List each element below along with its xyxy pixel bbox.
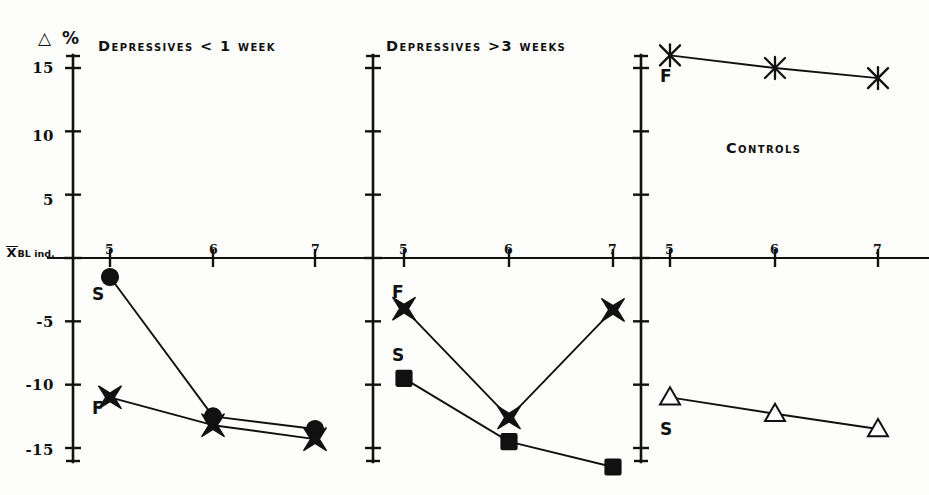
ytick-label-15: 15 [0,59,54,77]
series-label-p3-f: F [660,66,672,86]
panel-title-controls: Controls [726,140,801,156]
xtick-label-p3-7: 7 [873,242,882,257]
y-axis-unit-symbol: △ [38,28,52,48]
baseline-label-main: X [6,246,18,259]
series-label-p2-f: F [392,282,404,302]
ytick-label-minus10: -10 [0,376,54,394]
xtick-label-p1-6: 6 [209,242,218,257]
xtick-label-p3-5: 5 [665,242,674,257]
panel-title-depressives-lt1week: Depressives < 1 week [98,38,276,54]
xtick-label-p2-5: 5 [399,242,408,257]
ytick-label-10: 10 [0,127,54,145]
ytick-label-minus5: -5 [0,313,54,331]
series-label-p1-s: S [92,284,105,304]
y-axis-unit-label: % [62,28,80,48]
datapoint-panel-depressives-gt3weeks-F-x6 [498,406,521,429]
baseline-label-subscript: BL ind. [18,248,55,259]
baseline-label: XBL ind. [6,246,55,259]
series-line-panel-depressives-gt3weeks-F [404,309,613,418]
xtick-label-p1-5: 5 [105,242,114,257]
ytick-label-minus15: -15 [0,441,54,459]
xtick-label-p1-7: 7 [311,242,320,257]
series-label-p3-s: S [660,419,673,439]
datapoint-panel-controls-S-x5 [660,387,680,404]
series-label-p2-s: S [392,345,405,365]
datapoint-panel-depressives-gt3weeks-S-x6 [501,434,517,450]
xtick-label-p2-6: 6 [504,242,513,257]
datapoint-panel-depressives-gt3weeks-S-x5 [396,370,412,386]
datapoint-panel-depressives-lt1week-S-x5 [102,269,119,286]
chart-canvas [0,0,929,495]
xtick-label-p2-7: 7 [608,242,617,257]
series-label-p1-f: F [92,398,104,418]
datapoint-panel-depressives-gt3weeks-F-x7 [602,298,625,321]
ytick-label-5: 5 [0,191,54,209]
figure-container: △ % XBL ind. Depressives < 1 week Depres… [0,0,929,495]
panel-title-depressives-gt3weeks: Depressives >3 weeks [386,38,566,54]
xtick-label-p3-6: 6 [770,242,779,257]
datapoint-panel-depressives-gt3weeks-S-x7 [605,459,621,475]
